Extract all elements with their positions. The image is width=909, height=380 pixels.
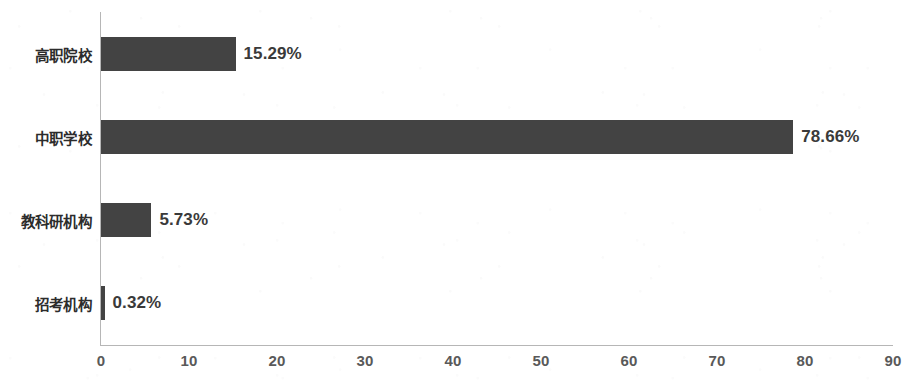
bar-segment[interactable] <box>101 203 151 237</box>
x-tick-label: 50 <box>532 352 549 369</box>
bar-value-label: 5.73% <box>159 210 208 230</box>
x-tick-label: 90 <box>884 352 901 369</box>
bar-row: 招考机构 0.32% <box>101 262 893 345</box>
bar-value-label: 0.32% <box>113 293 162 313</box>
bar-chart: 高职院校 15.29% 中职学校 78.66% 教科研机构 5.73% 招考机构… <box>0 0 909 380</box>
x-tick-label: 10 <box>180 352 197 369</box>
category-label: 招考机构 <box>0 293 92 314</box>
x-tick-label: 20 <box>268 352 285 369</box>
category-label: 高职院校 <box>0 43 92 64</box>
category-label: 教科研机构 <box>0 210 92 231</box>
x-axis-line <box>100 345 893 346</box>
x-tick-label: 70 <box>708 352 725 369</box>
bar-value-label: 78.66% <box>801 127 859 147</box>
bar-row: 中职学校 78.66% <box>101 95 893 178</box>
x-tick-label: 30 <box>356 352 373 369</box>
x-tick-label: 0 <box>97 352 106 369</box>
x-tick-label: 60 <box>620 352 637 369</box>
x-tick-label: 40 <box>444 352 461 369</box>
bar-segment[interactable] <box>101 286 105 320</box>
bar-value-label: 15.29% <box>244 44 302 64</box>
bar-segment[interactable] <box>101 120 793 154</box>
bar-row: 高职院校 15.29% <box>101 12 893 95</box>
plot-area: 高职院校 15.29% 中职学校 78.66% 教科研机构 5.73% 招考机构… <box>101 12 893 345</box>
bar-row: 教科研机构 5.73% <box>101 179 893 262</box>
x-tick-label: 80 <box>796 352 813 369</box>
bar-segment[interactable] <box>101 37 236 71</box>
category-label: 中职学校 <box>0 126 92 147</box>
